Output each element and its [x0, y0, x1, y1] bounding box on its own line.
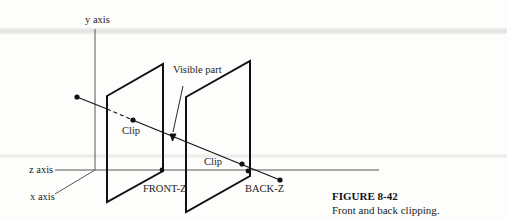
line-visible-part: [135, 121, 243, 165]
figure-number: FIGURE 8-42: [332, 190, 440, 202]
back-z-marker: [246, 169, 251, 174]
back-z-label: BACK-Z: [245, 184, 284, 195]
z-axis-label: z axis: [29, 165, 53, 176]
start-point: [74, 94, 79, 99]
clip-point-back: [239, 161, 244, 166]
clip-label-back: Clip: [204, 157, 222, 168]
visible-part-label: Visible part: [173, 65, 222, 76]
end-point: [277, 177, 282, 182]
figure-caption: FIGURE 8-42 Front and back clipping.: [332, 190, 440, 216]
y-axis-label: y axis: [85, 15, 110, 26]
front-z-marker: [160, 168, 165, 173]
x-axis-label: x axis: [30, 192, 55, 203]
x-axis-line: [55, 170, 95, 194]
figure-caption-text: Front and back clipping.: [332, 204, 440, 216]
clip-point-front: [130, 117, 135, 122]
line-outside-front: [77, 97, 107, 109]
axes: [55, 29, 379, 194]
clip-label-front: Clip: [122, 126, 140, 137]
back-clipping-plane: [186, 61, 250, 212]
visible-part-pointer: [170, 86, 183, 141]
front-z-label: FRONT-Z: [143, 184, 186, 195]
